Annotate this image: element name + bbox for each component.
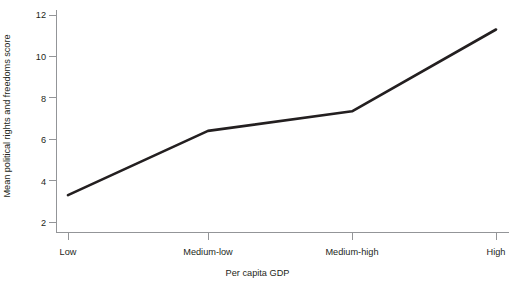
x-tick-label-medium-low: Medium-low: [148, 247, 268, 258]
x-tick-label-high: High: [436, 247, 515, 258]
caption-strip: [0, 287, 515, 296]
y-tick-marks: [49, 15, 56, 222]
x-axis-title: Per capita GDP: [0, 268, 515, 279]
x-tick-label-medium-high: Medium-high: [292, 247, 412, 258]
x-tick-marks: [68, 233, 496, 240]
x-tick-label-low: Low: [8, 247, 128, 258]
data-series-line: [68, 30, 496, 196]
figure-container: Mean political rights and freedoms score…: [0, 0, 515, 296]
